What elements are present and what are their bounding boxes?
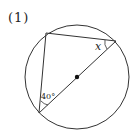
chord-ab bbox=[46, 33, 116, 41]
angle-40-arc bbox=[41, 101, 48, 105]
angle-x-label: x bbox=[95, 40, 102, 53]
angle-x-arc bbox=[105, 40, 107, 49]
circle-diagram: x 40° bbox=[0, 0, 140, 140]
center-point bbox=[75, 75, 79, 79]
angle-40-label: 40° bbox=[41, 92, 55, 101]
chord-ac bbox=[39, 33, 46, 113]
